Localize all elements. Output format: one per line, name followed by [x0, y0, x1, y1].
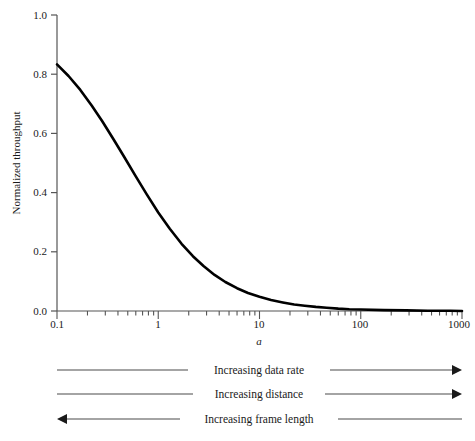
y-tick-label: 0.0 — [33, 305, 47, 317]
throughput-chart-figure: 0.0 0.2 0.4 0.6 0.8 1.0 0.1 1 10 100 100… — [0, 0, 475, 441]
annotation-label-data-rate: Increasing data rate — [214, 364, 304, 377]
x-tick-label: 1000 — [448, 318, 471, 330]
x-tick-label: 0.1 — [50, 318, 64, 330]
x-tick-label: 10 — [254, 318, 266, 330]
y-tick-label: 0.8 — [33, 68, 47, 80]
y-tick-label: 0.6 — [33, 127, 47, 139]
chart-svg: 0.0 0.2 0.4 0.6 0.8 1.0 0.1 1 10 100 100… — [0, 0, 475, 441]
annotation-label-distance: Increasing distance — [215, 388, 303, 401]
x-axis-title: a — [256, 335, 262, 347]
y-tick-label: 0.4 — [33, 186, 47, 198]
x-tick-label: 100 — [352, 318, 369, 330]
y-tick-label: 0.2 — [33, 245, 47, 257]
y-axis-title: Normalized throughput — [10, 112, 22, 215]
x-tick-label: 1 — [155, 318, 161, 330]
annotation-label-frame-length: Increasing frame length — [204, 413, 313, 426]
y-tick-label: 1.0 — [33, 9, 47, 21]
